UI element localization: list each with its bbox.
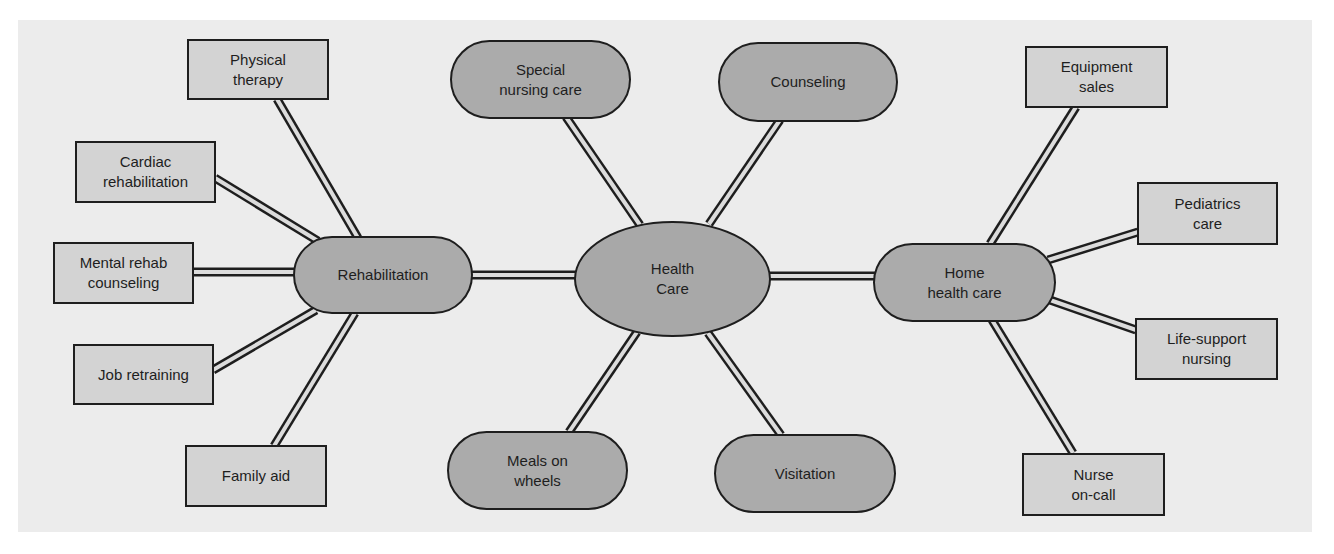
node-job-retraining: Job retraining <box>73 344 214 405</box>
node-special-nursing-care: Special nursing care <box>450 40 631 119</box>
node-label: Cardiac rehabilitation <box>103 152 188 192</box>
node-label: Rehabilitation <box>338 265 429 285</box>
node-visitation: Visitation <box>714 434 896 513</box>
node-counseling: Counseling <box>718 42 898 122</box>
node-label: Equipment sales <box>1061 57 1133 97</box>
node-health-care: Health Care <box>574 221 771 337</box>
node-nurse-on-call: Nurse on-call <box>1022 453 1165 516</box>
node-life-support-nursing: Life-support nursing <box>1135 318 1278 380</box>
node-label: Health Care <box>651 259 694 299</box>
node-label: Physical therapy <box>230 50 286 90</box>
node-label: Special nursing care <box>499 60 582 100</box>
node-rehabilitation: Rehabilitation <box>293 236 473 314</box>
node-label: Visitation <box>775 464 836 484</box>
node-meals-on-wheels: Meals on wheels <box>447 431 628 510</box>
node-label: Pediatrics care <box>1175 194 1241 234</box>
node-label: Meals on wheels <box>507 451 568 491</box>
node-pediatrics-care: Pediatrics care <box>1137 182 1278 245</box>
node-label: Home health care <box>927 263 1001 303</box>
node-label: Job retraining <box>98 365 189 385</box>
node-label: Family aid <box>222 466 290 486</box>
node-equipment-sales: Equipment sales <box>1025 46 1168 108</box>
node-home-health-care: Home health care <box>873 243 1056 322</box>
node-mental-rehab-counseling: Mental rehab counseling <box>53 242 194 304</box>
node-physical-therapy: Physical therapy <box>187 39 329 100</box>
node-label: Counseling <box>770 72 845 92</box>
node-cardiac-rehabilitation: Cardiac rehabilitation <box>75 141 216 203</box>
node-family-aid: Family aid <box>185 445 327 507</box>
node-label: Mental rehab counseling <box>80 253 168 293</box>
node-label: Nurse on-call <box>1071 465 1115 505</box>
node-label: Life-support nursing <box>1167 329 1246 369</box>
